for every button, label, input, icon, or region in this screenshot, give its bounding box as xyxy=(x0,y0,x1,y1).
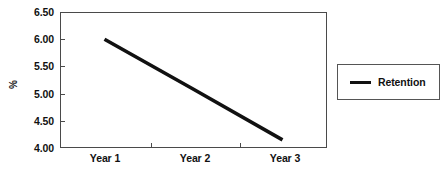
y-axis-tick-label: 4.50 xyxy=(6,116,54,127)
y-axis-tick-mark xyxy=(60,121,65,122)
x-axis-tick-mark xyxy=(240,143,241,148)
y-axis-tick-label: 6.50 xyxy=(6,7,54,18)
plot-area xyxy=(60,12,327,148)
x-axis-tick-label: Year 2 xyxy=(160,153,230,164)
x-axis-tick-label: Year 1 xyxy=(70,153,140,164)
x-axis-tick-mark xyxy=(151,143,152,148)
legend-label-retention: Retention xyxy=(378,76,426,88)
x-axis-tick-label: Year 3 xyxy=(250,153,320,164)
y-axis-tick-label: 6.00 xyxy=(6,34,54,45)
legend-line-swatch-retention xyxy=(350,81,371,84)
y-axis-tick-label: 4.00 xyxy=(6,143,54,154)
y-axis-tick-label: 5.50 xyxy=(6,61,54,72)
legend: Retention xyxy=(337,64,440,100)
y-axis-tick-mark xyxy=(60,66,65,67)
retention-line-chart: % 6.50 6.00 5.50 5.00 4.50 4.00 Year 1 Y… xyxy=(0,0,446,178)
y-axis-tick-mark xyxy=(60,39,65,40)
y-axis-tick-label: 5.00 xyxy=(6,89,54,100)
y-axis-tick-mark xyxy=(60,94,65,95)
